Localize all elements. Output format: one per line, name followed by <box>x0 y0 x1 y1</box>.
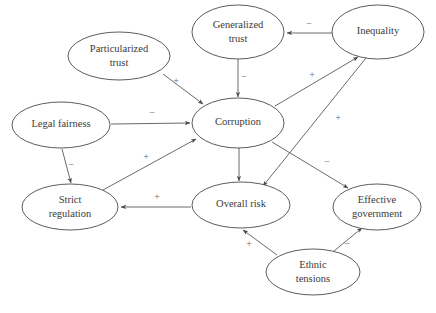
edge-sign-label: + <box>309 69 315 80</box>
node-label-line2: tensions <box>296 273 330 284</box>
edge-sign-label: + <box>335 112 341 123</box>
edge-corruption-to-inequality: + <box>275 57 358 106</box>
edge-sign-label: − <box>68 159 74 170</box>
node-label-line1: Corruption <box>215 116 262 127</box>
node-label-line1: Legal fairness <box>31 118 90 129</box>
edge-legal_fairness-to-strict_regulation: − <box>62 149 74 183</box>
edge-ethnic_tensions-to-overall_risk: + <box>243 230 277 255</box>
node-label-line2: government <box>352 208 402 219</box>
node-label-line1: Overall risk <box>216 198 267 209</box>
node-label-line1: Effective <box>358 194 397 205</box>
edge-particularized_trust-to-corruption: + <box>163 74 203 104</box>
node-generalized_trust[interactable]: Generalizedtrust <box>192 5 284 59</box>
node-particularized_trust[interactable]: Particularizedtrust <box>68 32 170 80</box>
edge-sign-label: − <box>306 18 312 29</box>
node-label-line1: Inequality <box>357 25 400 36</box>
node-label-line1: Strict <box>59 194 82 205</box>
node-effective_government[interactable]: Effectivegovernment <box>333 184 421 230</box>
edge-sign-label: + <box>143 151 149 162</box>
node-ethnic_tensions[interactable]: Ethnictensions <box>266 249 360 295</box>
node-label-line2: trust <box>229 33 248 44</box>
edge-legal_fairness-to-corruption: − <box>111 107 190 124</box>
node-label-line1: Particularized <box>90 43 149 54</box>
edge-sign-label: + <box>173 75 179 86</box>
edge-line <box>272 142 348 188</box>
node-overall_risk[interactable]: Overall risk <box>192 182 290 228</box>
node-strict_regulation[interactable]: Strictregulation <box>22 184 118 230</box>
edge-sign-label: + <box>154 191 160 202</box>
edge-strict_regulation-to-corruption: + <box>103 139 196 190</box>
edge-line <box>163 74 203 104</box>
edge-corruption-to-effective_government: − <box>272 142 348 188</box>
node-label-line1: Generalized <box>213 19 264 30</box>
causal-path-diagram: +−−−−++−+++− ParticularizedtrustGenerali… <box>0 0 436 313</box>
edge-sign-label: − <box>344 238 350 249</box>
edge-sign-label: + <box>246 238 252 249</box>
node-inequality[interactable]: Inequality <box>332 5 424 59</box>
edge-line <box>275 57 358 106</box>
edge-generalized_trust-to-corruption: − <box>238 59 247 97</box>
node-label-line1: Ethnic <box>299 259 327 270</box>
node-corruption[interactable]: Corruption <box>192 98 284 148</box>
edge-sign-label: − <box>149 107 155 118</box>
edge-line <box>103 139 196 190</box>
edge-inequality-to-generalized_trust: − <box>287 18 332 33</box>
node-label-line2: trust <box>110 57 129 68</box>
edge-sign-label: − <box>324 156 330 167</box>
edge-sign-label: − <box>241 71 247 82</box>
edge-line <box>111 123 190 124</box>
node-label-line2: regulation <box>49 208 92 219</box>
diagram-canvas: +−−−−++−+++− ParticularizedtrustGenerali… <box>0 0 436 313</box>
edge-ethnic_tensions-to-effective_government: − <box>334 228 362 251</box>
nodes-layer: ParticularizedtrustGeneralizedtrustInequ… <box>12 5 424 295</box>
node-legal_fairness[interactable]: Legal fairness <box>12 102 110 148</box>
edge-overall_risk-to-strict_regulation: + <box>121 191 191 207</box>
